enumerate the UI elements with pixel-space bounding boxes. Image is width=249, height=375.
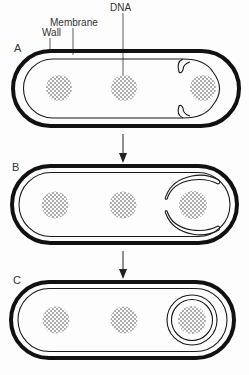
dna-nucleoid [42,192,69,219]
stage-label-b: B [12,162,19,173]
cell-stage-a [13,51,239,126]
cell-stage-b [12,166,237,243]
dna-nucleoid [110,192,137,219]
diagram-canvas [0,0,249,375]
stage-label-c: C [13,275,21,286]
dna-nucleoid [46,75,72,101]
stage-label-a: A [14,43,21,54]
wall-label: Wall [42,28,61,38]
dna-nucleoid [111,75,137,101]
cell-stage-c [11,282,234,358]
dna-nucleoid [111,307,138,334]
arrow-b-to-c [119,251,127,279]
dna-label: DNA [110,3,131,13]
arrow-a-to-b [119,134,127,163]
dna-nucleoid [178,306,206,334]
dna-nucleoid [190,75,216,101]
dna-nucleoid [179,191,207,219]
septum-bottom [178,105,190,118]
dna-nucleoid [43,307,70,334]
bacterial-division-diagram: DNA Membrane Wall A B C [0,0,249,375]
